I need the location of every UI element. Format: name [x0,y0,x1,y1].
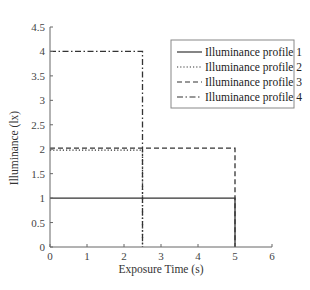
legend-label-4: Illuminance profile 4 [205,91,302,104]
y-tick-label: 3.5 [31,70,45,82]
y-tick-label: 1 [40,192,46,204]
x-tick-label: 4 [195,250,201,262]
y-tick-label: 2.5 [31,119,45,131]
legend-label-1: Illuminance profile 1 [205,46,302,59]
legend: Illuminance profile 1Illuminance profile… [171,40,302,108]
y-tick-label: 2 [40,143,46,155]
illuminance-chart: 012345600.511.522.533.544.5 Exposure Tim… [0,0,310,290]
x-tick-label: 1 [84,250,90,262]
y-axis-label: Illuminance (lx) [8,111,21,186]
y-tick-label: 4.5 [31,21,45,33]
x-tick-label: 0 [47,250,53,262]
y-tick-label: 0 [40,241,46,253]
y-tick-label: 0.5 [31,217,45,229]
y-tick-label: 4 [40,45,46,57]
y-tick-label: 3 [40,94,46,106]
legend-label-2: Illuminance profile 2 [205,61,302,74]
legend-label-3: Illuminance profile 3 [205,76,302,89]
x-tick-label: 5 [232,250,238,262]
y-tick-label: 1.5 [31,168,45,180]
x-tick-label: 6 [269,250,275,262]
x-axis-label: Exposure Time (s) [119,263,204,276]
x-tick-label: 2 [121,250,127,262]
series-line-4 [50,51,143,247]
x-tick-label: 3 [158,250,164,262]
